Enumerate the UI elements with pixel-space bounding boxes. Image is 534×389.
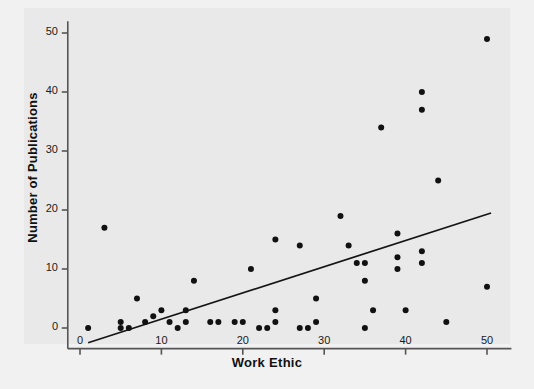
scatter-plot-figure: 0102030405001020304050 Work Ethic Number… <box>0 0 534 389</box>
y-axis-title: Number of Publications <box>25 53 40 283</box>
x-tick-label: 50 <box>472 334 502 346</box>
x-tick-label: 10 <box>146 334 176 346</box>
x-tick-label: 0 <box>65 334 95 346</box>
y-tick-label: 0 <box>32 320 58 332</box>
x-tick-label: 40 <box>391 334 421 346</box>
tick-label-layer: 0102030405001020304050 <box>0 0 534 389</box>
y-tick-label: 50 <box>32 25 58 37</box>
x-tick-label: 20 <box>228 334 258 346</box>
x-axis-title: Work Ethic <box>0 355 534 370</box>
x-tick-label: 30 <box>309 334 339 346</box>
